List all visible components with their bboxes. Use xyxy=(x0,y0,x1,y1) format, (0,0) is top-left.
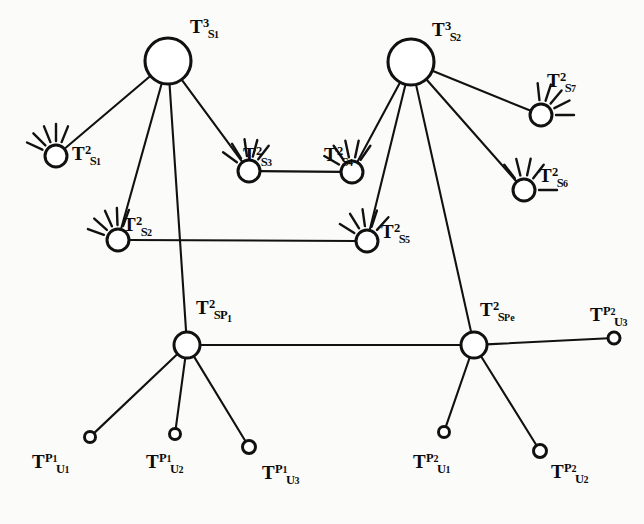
label-TS3_2: T2S3 xyxy=(243,145,272,168)
label-TU2_P1: TP1U2 xyxy=(146,452,184,475)
node-TU3_P1[interactable] xyxy=(243,441,256,454)
sun-ray-icon xyxy=(504,165,514,178)
sun-ray-layer xyxy=(27,83,574,235)
node-TU3_P2[interactable] xyxy=(608,332,620,344)
edge-TS2_2-TS5_2 xyxy=(128,240,356,241)
node-TS1_2[interactable] xyxy=(45,145,67,167)
edge-TS1_3-TS3_2 xyxy=(181,79,243,163)
label-TS5_2: T2S5 xyxy=(381,222,410,245)
edge-TS1_3-TS2_2 xyxy=(121,83,162,230)
sun-ray-icon xyxy=(554,100,569,108)
sun-ray-icon xyxy=(33,133,45,145)
label-TU3_P2: TP2U3 xyxy=(590,305,628,328)
edge-layer xyxy=(64,70,609,446)
sun-ray-icon xyxy=(105,211,112,227)
node-TSP1_2[interactable] xyxy=(174,332,200,358)
edge-TS2_3-TS7_2 xyxy=(432,70,532,111)
edge-TSP1_2-TU1_P1 xyxy=(94,354,178,434)
node-TU1_P2[interactable] xyxy=(439,427,450,438)
edge-TSP1_2-TU2_P1 xyxy=(176,357,186,429)
edge-TS2_3-TS4_2 xyxy=(357,82,400,163)
sun-ray-icon xyxy=(538,83,540,100)
edge-TSPe_2-TU1_P2 xyxy=(446,357,470,428)
sun-ray-icon xyxy=(350,214,359,228)
label-TU1_P1: TP1U1 xyxy=(32,452,70,475)
node-TS7_2[interactable] xyxy=(530,104,552,126)
node-TU2_P2[interactable] xyxy=(534,445,547,458)
node-TS6_2[interactable] xyxy=(513,179,535,201)
sun-ray-icon xyxy=(88,229,104,235)
edge-TS3_2-TS4_2 xyxy=(259,171,341,172)
sun-ray-icon xyxy=(44,126,50,142)
label-TS1_2: T2S1 xyxy=(72,144,101,167)
topology-diagram: T3S1T3S2T2S1T2S2T2S3T2S4T2S5T2S6T2S7T2SP… xyxy=(0,0,644,524)
sun-ray-icon xyxy=(527,159,531,176)
sun-ray-icon xyxy=(27,142,42,149)
label-TS2_3: T3S2 xyxy=(432,20,461,43)
label-TSPe_2: T2SPe xyxy=(480,300,515,323)
node-TU1_P1[interactable] xyxy=(85,432,96,443)
label-TU1_P2: TP2U1 xyxy=(413,452,451,475)
edge-TS1_3-TS1_2 xyxy=(64,75,151,149)
label-TS2_2: T2S2 xyxy=(123,215,152,238)
sun-ray-icon xyxy=(340,224,354,233)
edge-TS1_3-TSP1_2 xyxy=(169,83,186,332)
sun-ray-icon xyxy=(355,141,359,158)
edge-TS2_3-TS6_2 xyxy=(426,79,517,182)
label-TS4_2: T2S4 xyxy=(324,145,353,168)
edge-TSP1_2-TU3_P1 xyxy=(193,356,245,442)
label-TU3_P1: TP1U3 xyxy=(262,463,300,486)
edge-TSPe_2-TU3_P2 xyxy=(486,338,608,344)
node-TSPe_2[interactable] xyxy=(461,332,487,358)
label-TU2_P2: TP2U2 xyxy=(551,462,589,485)
node-TS1_3[interactable] xyxy=(145,38,191,84)
node-TS5_2[interactable] xyxy=(356,230,378,252)
label-TSP1_2: T2SP1 xyxy=(196,298,232,324)
node-TU2_P1[interactable] xyxy=(170,429,181,440)
node-TS2_3[interactable] xyxy=(388,39,434,85)
edge-TSPe_2-TU2_P2 xyxy=(481,356,537,446)
sun-ray-icon xyxy=(363,209,365,226)
sun-ray-icon xyxy=(94,219,107,230)
sun-ray-icon xyxy=(223,152,237,162)
label-TS6_2: T2S6 xyxy=(539,166,568,189)
label-TS7_2: T2S7 xyxy=(547,71,576,94)
sun-ray-icon xyxy=(62,126,68,142)
sun-ray-icon xyxy=(516,159,520,175)
sun-ray-icon xyxy=(117,208,118,225)
node-layer xyxy=(45,38,620,458)
label-TS1_3: T3S1 xyxy=(190,17,219,40)
